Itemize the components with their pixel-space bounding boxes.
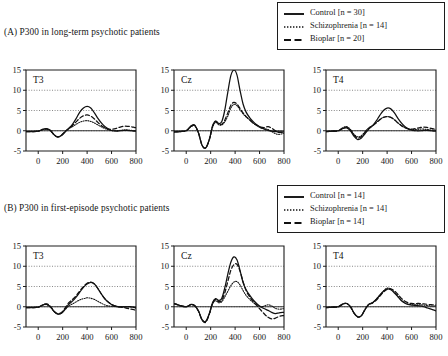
erp-trace-bioplar <box>26 115 136 137</box>
svg-text:0: 0 <box>184 332 188 342</box>
svg-text:600: 600 <box>405 156 418 166</box>
svg-text:Cz: Cz <box>181 74 192 85</box>
svg-text:800: 800 <box>278 156 291 166</box>
legend-item-control: Control [n = 14] <box>283 190 438 203</box>
svg-text:400: 400 <box>229 332 242 342</box>
svg-text:0: 0 <box>184 156 188 166</box>
erp-trace-bioplar <box>326 289 436 317</box>
legend-section-b: Control [n = 14] Schizophrenia [n = 14] … <box>277 185 445 233</box>
svg-text:200: 200 <box>56 156 69 166</box>
svg-text:10: 10 <box>312 261 321 271</box>
svg-text:-5: -5 <box>162 146 169 156</box>
svg-text:800: 800 <box>130 156 143 166</box>
legend-item-schizophrenia: Schizophrenia [n = 14] <box>283 203 438 216</box>
erp-trace-control <box>26 282 136 314</box>
svg-text:15: 15 <box>160 65 169 75</box>
legend-item-bipolar: Bioplar [n = 20] <box>283 33 438 46</box>
svg-text:600: 600 <box>253 332 266 342</box>
svg-text:600: 600 <box>405 332 418 342</box>
svg-text:-5: -5 <box>162 322 169 332</box>
svg-text:400: 400 <box>381 332 394 342</box>
svg-text:10: 10 <box>12 85 21 95</box>
svg-text:600: 600 <box>253 156 266 166</box>
legend-label-bipolar: Bioplar [n = 14] <box>310 218 364 226</box>
erp-trace-schizophrenia <box>326 288 436 317</box>
svg-text:15: 15 <box>12 65 21 75</box>
svg-text:200: 200 <box>204 156 217 166</box>
svg-text:T4: T4 <box>333 74 344 85</box>
erp-plot-b-cz: -50510150200400600800Cz <box>148 240 296 350</box>
legend-key-dotted-icon <box>283 22 305 32</box>
erp-plot-a-t4: -50510150200400600800T4 <box>300 64 448 174</box>
svg-text:0: 0 <box>336 156 340 166</box>
svg-text:15: 15 <box>312 241 321 251</box>
section-a-title: (A) P300 in long-term psychotic patients <box>4 27 160 37</box>
svg-text:400: 400 <box>381 156 394 166</box>
svg-text:10: 10 <box>160 261 169 271</box>
erp-plot-b-t4: -50510150200400600800T4 <box>300 240 448 350</box>
svg-text:600: 600 <box>105 332 118 342</box>
legend-section-a: Control [n = 30] Schizophrenia [n = 14] … <box>277 2 445 50</box>
svg-text:800: 800 <box>130 332 143 342</box>
legend-key-solid-icon <box>283 192 305 202</box>
svg-text:5: 5 <box>165 282 169 292</box>
legend-label-bipolar: Bioplar [n = 20] <box>310 35 364 43</box>
svg-text:5: 5 <box>17 106 21 116</box>
legend-label-schizophrenia: Schizophrenia [n = 14] <box>310 22 387 30</box>
svg-text:0: 0 <box>317 302 321 312</box>
svg-text:200: 200 <box>56 332 69 342</box>
svg-text:10: 10 <box>160 85 169 95</box>
svg-text:5: 5 <box>317 282 321 292</box>
svg-text:5: 5 <box>17 282 21 292</box>
svg-text:0: 0 <box>165 126 169 136</box>
erp-trace-bioplar <box>174 264 284 323</box>
svg-text:200: 200 <box>204 332 217 342</box>
legend-key-dashed-icon <box>283 218 305 228</box>
legend-item-schizophrenia: Schizophrenia [n = 14] <box>283 20 438 33</box>
svg-text:0: 0 <box>36 332 40 342</box>
svg-text:0: 0 <box>17 302 21 312</box>
erp-plot-a-cz: -50510150200400600800Cz <box>148 64 296 174</box>
legend-label-schizophrenia: Schizophrenia [n = 14] <box>310 205 387 213</box>
svg-text:200: 200 <box>356 332 369 342</box>
svg-text:5: 5 <box>165 106 169 116</box>
svg-text:-5: -5 <box>14 322 21 332</box>
svg-text:400: 400 <box>81 332 94 342</box>
legend-item-bipolar: Bioplar [n = 14] <box>283 216 438 229</box>
svg-text:10: 10 <box>12 261 21 271</box>
erp-trace-schizophrenia <box>26 298 136 314</box>
section-b-title: (B) P300 in first-episode psychotic pati… <box>4 203 169 213</box>
svg-text:-5: -5 <box>314 322 321 332</box>
svg-text:400: 400 <box>229 156 242 166</box>
svg-text:5: 5 <box>317 106 321 116</box>
erp-trace-schizophrenia <box>174 281 284 322</box>
svg-text:15: 15 <box>160 241 169 251</box>
svg-text:Cz: Cz <box>181 250 192 261</box>
erp-plot-a-t3: -50510150200400600800T3 <box>0 64 148 174</box>
svg-text:0: 0 <box>17 126 21 136</box>
svg-text:800: 800 <box>278 332 291 342</box>
legend-item-control: Control [n = 30] <box>283 7 438 20</box>
svg-text:600: 600 <box>105 156 118 166</box>
svg-text:800: 800 <box>430 156 443 166</box>
svg-text:200: 200 <box>356 156 369 166</box>
legend-key-solid-icon <box>283 9 305 19</box>
legend-label-control: Control [n = 30] <box>310 9 365 17</box>
legend-key-dashed-icon <box>283 35 305 45</box>
svg-text:-5: -5 <box>314 146 321 156</box>
svg-text:0: 0 <box>36 156 40 166</box>
svg-text:800: 800 <box>430 332 443 342</box>
svg-text:-5: -5 <box>14 146 21 156</box>
svg-text:T3: T3 <box>33 250 44 261</box>
svg-text:400: 400 <box>81 156 94 166</box>
erp-plot-b-t3: -50510150200400600800T3 <box>0 240 148 350</box>
svg-text:15: 15 <box>312 65 321 75</box>
svg-text:T3: T3 <box>33 74 44 85</box>
svg-text:0: 0 <box>165 302 169 312</box>
svg-text:T4: T4 <box>333 250 344 261</box>
svg-text:0: 0 <box>336 332 340 342</box>
svg-text:15: 15 <box>12 241 21 251</box>
svg-text:0: 0 <box>317 126 321 136</box>
erp-trace-bioplar <box>174 102 284 148</box>
svg-text:10: 10 <box>312 85 321 95</box>
